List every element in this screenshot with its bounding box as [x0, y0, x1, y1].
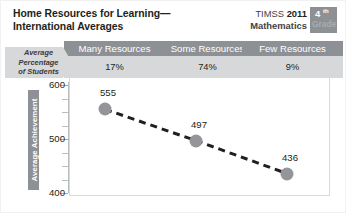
category-column-few: Few Resources 9%: [242, 41, 343, 78]
chart-header: Home Resources for Learning— Internation…: [0, 0, 346, 40]
avg-pct-line-2: Percentage: [5, 58, 72, 68]
page-title-line-2: International Averages: [13, 21, 213, 34]
category-percent-many: 17%: [64, 56, 165, 78]
page-title: Home Resources for Learning— Internation…: [13, 8, 213, 33]
y-axis-tick-label: 600: [49, 80, 65, 90]
avg-pct-line-3: of Students: [5, 67, 72, 77]
timss-text: TIMSS 2011 Mathematics: [250, 7, 307, 33]
y-tick-minor: [62, 112, 68, 113]
timss-year: 2011: [287, 8, 307, 19]
y-axis-line: [68, 82, 69, 193]
grade-number: 4: [315, 8, 320, 19]
y-tick-minor: [62, 166, 68, 167]
timss-study-line: TIMSS 2011: [250, 8, 307, 20]
category-column-many: Many Resources 17%: [64, 41, 165, 78]
plot-area: [69, 77, 330, 196]
y-axis-title: Average Achievement: [28, 90, 39, 190]
y-axis-tick-label: 500: [49, 134, 65, 144]
category-label-many: Many Resources: [64, 41, 165, 56]
avg-pct-line-1: Average: [5, 48, 72, 58]
y-tick-minor: [62, 153, 68, 154]
y-axis-title-text: Average Achievement: [29, 99, 38, 182]
timss-branding: TIMSS 2011 Mathematics 4 th Grade: [250, 7, 337, 35]
y-axis-tick-label: 400: [49, 188, 65, 198]
category-label-few: Few Resources: [242, 41, 343, 56]
category-percent-few: 9%: [242, 56, 343, 78]
y-tick-minor: [62, 126, 68, 127]
grade-badge: 4 th Grade: [310, 7, 337, 33]
page-title-line-1: Home Resources for Learning—: [13, 8, 213, 21]
timss-subject: Mathematics: [250, 20, 307, 32]
y-tick-minor: [62, 180, 68, 181]
average-percentage-of-students-label: Average Percentage of Students: [5, 47, 72, 78]
y-tick-minor: [62, 99, 68, 100]
timss-name: TIMSS: [255, 8, 284, 19]
grade-ordinal-suffix: th: [323, 7, 329, 16]
grade-word: Grade: [312, 19, 336, 29]
